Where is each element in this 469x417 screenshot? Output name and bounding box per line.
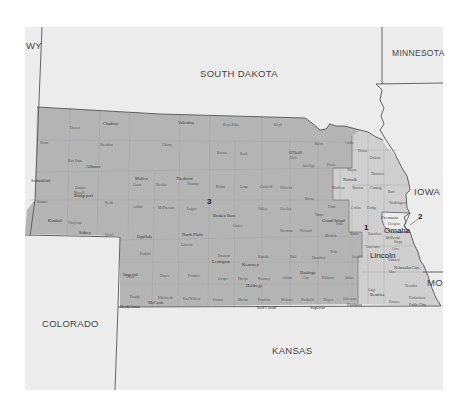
county-sheridan: Sheridan [100,143,113,147]
city-ogallala: Ogallala [137,234,152,239]
district-3-label: 3 [207,197,211,206]
county-dawes: Dawes [70,126,80,130]
county-cherry: Cherry [162,143,172,147]
city-sidney: Sidney [79,230,91,235]
county-holt: Holt [290,156,296,160]
county-fillmore: Fillmore [322,276,334,280]
county-knox: Knox [315,142,323,146]
city-mullen: Mullen [135,176,148,181]
county-platte: Platte [328,205,336,209]
county-antelope: Antelope [302,164,315,168]
county-polk: Polk [336,222,343,226]
county-cuming: Cuming [370,186,382,190]
city-norfolk: Norfolk [343,177,357,182]
county-gosper: Gosper [218,277,228,281]
county-richardson: Richardson [409,296,425,300]
county-hitchcock: Hitchcock [158,296,173,300]
county-stanton: Stanton [352,186,363,190]
city-superior: Superior [310,305,325,310]
county-merrick: Merrick [325,234,337,238]
county-colfax: Colfax [351,206,361,210]
county-dundy: Dundy [130,295,140,299]
county-butler: Butler [350,232,359,236]
county-douglas: Douglas [388,222,400,226]
county-arthur: Arthur [133,205,143,209]
county-adams: Adams [282,276,292,280]
county-franklin: Franklin [258,298,270,302]
county-cass: Cass [392,247,399,251]
county-washington: Washington [389,201,406,205]
city-chadron: Chadron [103,121,118,126]
county-keya-paha: Keya Paha [223,123,238,127]
state-label-minnesota: MINNESOTA [392,48,445,58]
county-banner: Banner [37,200,47,204]
city-valentine: Valentine [178,120,195,125]
county-saline: Saline [345,276,354,280]
county-phelps: Phelps [238,277,248,281]
county-dakota: Dakota [370,156,380,160]
county-thurston: Thurston [371,172,384,176]
county-pierce: Pierce [327,163,336,167]
city-holdrege: Holdrege [246,283,262,288]
city-lexington: Lexington [212,259,230,264]
county-johnson: Johnson [388,258,400,262]
city-fremont: Fremont [381,215,398,220]
state-label-wyoming: WY [26,40,42,51]
county-lincoln: Lincoln [181,243,192,247]
county-dodge: Dodge [367,206,377,210]
map-graphic [0,0,469,417]
county-brown: Brown [217,151,227,155]
city-kearney: Kearney [242,262,259,267]
county-burt: Burt [388,190,394,194]
county-keith: Keith [105,201,113,205]
county-logan: Logan [187,207,196,211]
state-label-colorado: COLORADO [42,318,99,329]
county-madison: Madison [332,186,345,190]
county-hamilton: Hamilton [312,256,326,260]
city-red-cloud: Red Cloud [257,305,276,310]
county-york: York [330,250,337,254]
county-pawnee: Pawnee [389,300,400,304]
county-garfield: Garfield [260,185,272,189]
county-nuckolls: Nuckolls [301,298,314,302]
city-alliance: Alliance [86,164,101,169]
county-saunders: Saunders [368,232,381,236]
county-cedar: Cedar [345,141,354,145]
county-howard: Howard [300,229,312,233]
city-hastings: Hastings [300,270,315,275]
county-perkins: Perkins [140,252,151,256]
county-rock: Rock [240,152,248,156]
county-hayes: Hayes [160,274,169,278]
county-chase: Chase [126,275,135,279]
district-2-label: 2 [418,212,422,221]
county-cheyenne: Cheyenne [68,221,82,225]
county-jefferson: Jefferson [343,297,356,301]
county-grant: Grant [133,183,141,187]
county-wayne: Wayne [347,168,357,172]
county-harlan: Harlan [238,298,248,302]
county-frontier: Frontier [188,274,200,278]
county-hooker: Hooker [156,183,167,187]
nebraska-district-map: WY SOUTH DAKOTA MINNESOTA IOWA MO KANSAS… [0,0,469,417]
county-custer: Custer [233,224,242,228]
city-scottsbluff: Scottsbluff [31,178,50,183]
county-valley: Valley [258,207,267,211]
city-oneill: O'Neill [289,150,302,155]
city-broken-bow: Broken Bow [213,213,235,218]
county-box-butte: Box Butte [68,159,83,163]
state-label-missouri: MO [427,277,443,288]
county-garden: Garden [75,186,86,190]
county-sherman: Sherman [280,229,293,233]
county-nance: Nance [315,213,324,217]
state-label-south-dakota: SOUTH DAKOTA [200,68,278,79]
county-greeley: Greeley [280,207,291,211]
county-otoe: Otoe [389,270,396,274]
city-mccook: McCook [148,300,163,305]
district-1-label: 1 [364,223,368,232]
county-dawson: Dawson [218,254,230,258]
county-thomas: Thomas [187,182,199,186]
county-nemaha: Nemaha [405,284,417,288]
city-thedford: Thedford [176,176,192,181]
county-seward: Seward [352,255,363,259]
city-nebraska-city: Nebraska City [394,265,419,270]
